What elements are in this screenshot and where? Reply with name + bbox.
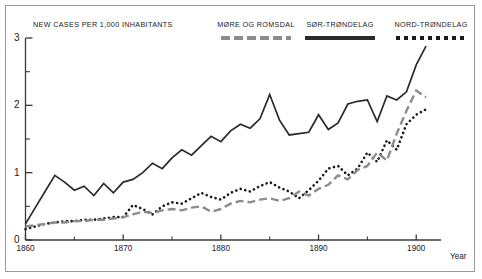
- series-line-m-re-og-romsdal: [26, 91, 427, 227]
- y-tick-label: 1: [6, 167, 20, 178]
- x-tick-label: 1880: [201, 244, 241, 253]
- x-tick-label: 1860: [6, 244, 46, 253]
- x-tick-label: 1870: [103, 244, 143, 253]
- x-tick-label: 1890: [299, 244, 339, 253]
- line-chart-plot: [0, 0, 482, 279]
- y-tick-label: 2: [6, 99, 20, 110]
- x-tick-label: 1900: [396, 244, 436, 253]
- axis-lines: [26, 38, 442, 240]
- y-tick-label: 3: [6, 32, 20, 43]
- series-line-nord-tr-ndelag: [26, 109, 427, 229]
- series-line-s-r-tr-ndelag: [26, 46, 427, 224]
- data-series-layer: [26, 46, 427, 229]
